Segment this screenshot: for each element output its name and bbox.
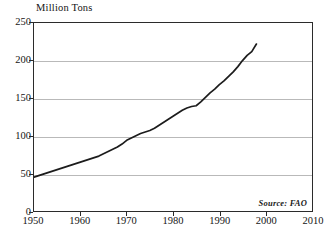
y-tick-mark-0 (29, 212, 33, 213)
y-tick-mark-200 (29, 60, 33, 61)
y-tick-mark-50 (29, 174, 33, 175)
x-tick-mark-1990 (220, 212, 221, 216)
y-tick-mark-100 (29, 136, 33, 137)
chart-figure: Million Tons Source: FAO 050100150200250… (0, 0, 336, 248)
y-tick-mark-250 (29, 22, 33, 23)
x-tick-mark-1970 (126, 212, 127, 216)
x-tick-mark-1960 (80, 212, 81, 216)
x-tick-mark-2000 (266, 212, 267, 216)
x-tick-mark-1980 (173, 212, 174, 216)
axis-tick-marks (0, 0, 336, 248)
y-tick-mark-150 (29, 98, 33, 99)
